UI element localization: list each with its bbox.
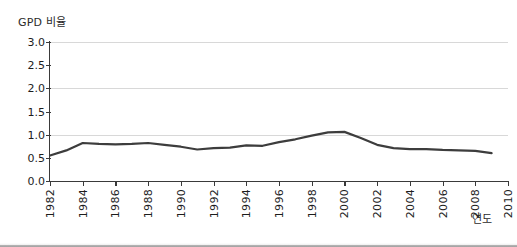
data-line-gpd-ratio [50, 132, 492, 156]
page-edge-shadow [0, 243, 517, 247]
series-layer [0, 0, 517, 247]
chart-figure: GPD 비율 연도 3.0 2.5 2.0 1.5 1.0 0.5 0.0 19… [0, 0, 517, 247]
